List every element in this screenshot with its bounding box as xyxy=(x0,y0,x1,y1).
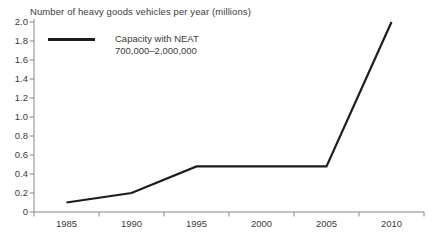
y-tick-label: 2.0 xyxy=(15,16,28,27)
y-tick-label: 0.4 xyxy=(15,168,28,179)
y-tick-label: 1.2 xyxy=(15,92,28,103)
line-chart: Number of heavy goods vehicles per year … xyxy=(0,0,436,241)
x-tick-label: 2000 xyxy=(251,218,272,229)
y-tick-label: 1.6 xyxy=(15,54,28,65)
y-tick-label: 1.8 xyxy=(15,35,28,46)
y-tick-label: 0 xyxy=(23,206,28,217)
y-tick-label: 1.4 xyxy=(15,73,28,84)
y-tick-label: 0.2 xyxy=(15,187,28,198)
data-line-capacity-with-neat xyxy=(67,22,392,203)
plot-area: 00.20.40.60.81.01.21.41.61.82.0198519901… xyxy=(0,0,436,241)
x-tick-label: 2005 xyxy=(316,218,337,229)
y-tick-label: 0.6 xyxy=(15,149,28,160)
x-tick-label: 1990 xyxy=(121,218,142,229)
y-tick-label: 1.0 xyxy=(15,111,28,122)
x-tick-label: 1985 xyxy=(56,218,77,229)
x-tick-label: 1995 xyxy=(186,218,207,229)
y-tick-label: 0.8 xyxy=(15,130,28,141)
x-tick-label: 2010 xyxy=(381,218,402,229)
